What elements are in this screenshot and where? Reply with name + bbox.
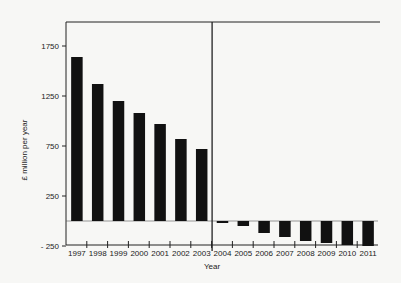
x-tick-label: 2006 [255,249,273,258]
x-tick-label: 1997 [68,249,86,258]
bar-2009 [321,221,333,243]
bar-1997 [71,57,83,221]
bar-2004 [217,221,229,223]
x-tick-label: 2005 [234,249,252,258]
x-tick-label: 1999 [110,249,128,258]
x-tick-label: 2002 [172,249,190,258]
bar-2000 [134,113,146,221]
x-tick-label: 2010 [338,249,356,258]
y-tick-label: 1750 [29,42,59,51]
bar-2010 [342,221,354,245]
x-axis-label: Year [204,262,220,271]
bar-1998 [92,84,104,221]
bar-2006 [258,221,270,233]
x-tick-label: 2000 [130,249,148,258]
x-tick-label: 2009 [318,249,336,258]
bar-chart: £ million per year - 25025075012501750 1… [0,0,401,283]
x-tick-label: 2007 [276,249,294,258]
bar-1999 [113,101,125,221]
bar-2011 [362,221,374,246]
x-tick-label: 2001 [151,249,169,258]
y-tick-label: 250 [29,192,59,201]
x-tick-label: 2011 [359,249,376,258]
x-tick-label: 2003 [193,249,211,258]
bar-2008 [300,221,312,241]
x-tick-label: 2004 [214,249,232,258]
bar-2003 [196,149,208,221]
y-tick-label: 750 [29,142,59,151]
bar-2007 [279,221,291,237]
y-tick-label: - 250 [29,242,59,251]
bar-2002 [175,139,187,221]
plot-area [0,0,401,283]
bar-2005 [238,221,250,226]
y-tick-label: 1250 [29,92,59,101]
y-axis-label: £ million per year [20,120,29,181]
x-tick-label: 2008 [297,249,315,258]
bar-2001 [154,124,166,221]
x-tick-label: 1998 [89,249,107,258]
